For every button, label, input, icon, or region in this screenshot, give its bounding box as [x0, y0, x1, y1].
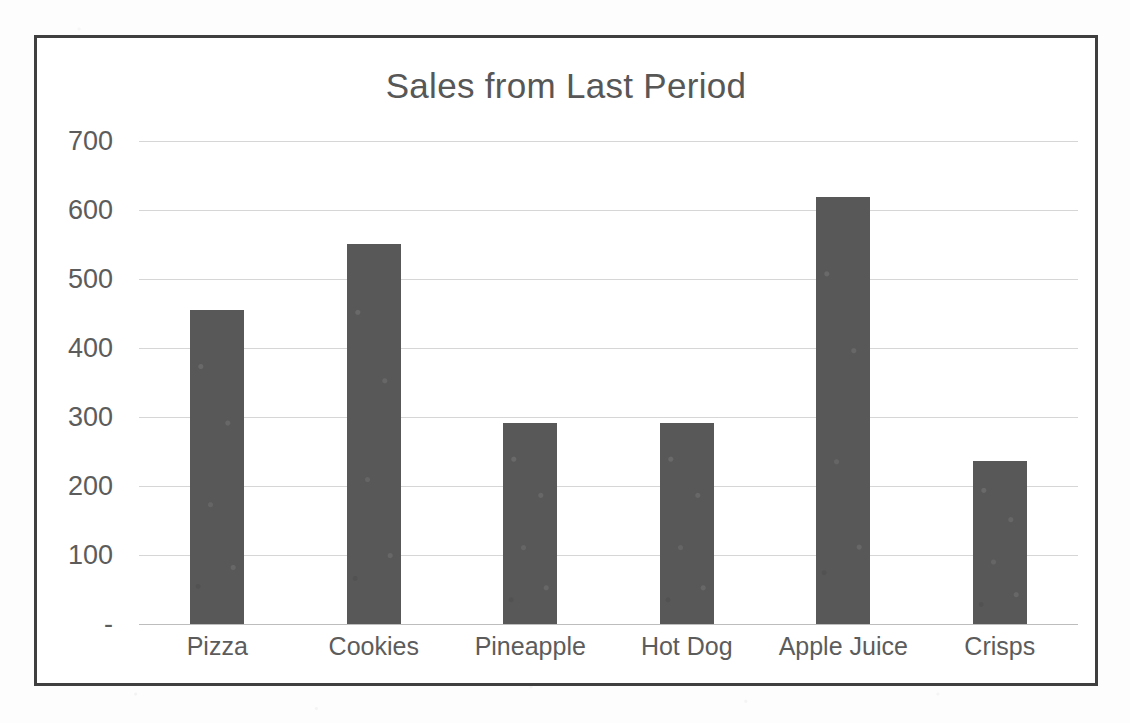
bar-slot-pizza	[139, 141, 296, 624]
xtick-label-apple-juice: Apple Juice	[779, 632, 908, 660]
scanned-page: Sales from Last Period 700 600 500 400 3…	[0, 0, 1130, 723]
ytick-label-100: 100	[68, 540, 113, 571]
bar-slot-crisps	[922, 141, 1079, 624]
ytick-label-400: 400	[68, 333, 113, 364]
bar-pineapple[interactable]	[503, 423, 557, 624]
xlabel-slot-pineapple: Pineapple	[452, 632, 609, 661]
bar-apple-juice[interactable]	[816, 197, 870, 624]
ytick-label-500: 500	[68, 264, 113, 295]
bar-cookies[interactable]	[347, 244, 401, 624]
xlabel-slot-pizza: Pizza	[139, 632, 296, 661]
chart-title: Sales from Last Period	[37, 66, 1095, 106]
xtick-label-cookies: Cookies	[329, 632, 419, 660]
bar-slot-cookies	[296, 141, 453, 624]
bar-crisps[interactable]	[973, 461, 1027, 624]
ytick-label-zero: -	[104, 609, 113, 640]
bar-hot-dog[interactable]	[660, 423, 714, 624]
bar-slot-apple-juice	[765, 141, 922, 624]
xlabel-slot-hot-dog: Hot Dog	[609, 632, 766, 661]
bar-slot-pineapple	[452, 141, 609, 624]
ytick-label-600: 600	[68, 195, 113, 226]
bar-slot-hot-dog	[609, 141, 766, 624]
ytick-label-300: 300	[68, 402, 113, 433]
xtick-label-pizza: Pizza	[187, 632, 248, 660]
xtick-label-hot-dog: Hot Dog	[641, 632, 733, 660]
bar-series	[139, 141, 1078, 624]
ytick-label-200: 200	[68, 471, 113, 502]
xlabel-slot-cookies: Cookies	[296, 632, 453, 661]
gridline-zero-baseline: -	[139, 624, 1078, 625]
xtick-label-crisps: Crisps	[964, 632, 1035, 660]
x-axis-labels: Pizza Cookies Pineapple Hot Dog Apple Ju…	[139, 632, 1078, 661]
xtick-label-pineapple: Pineapple	[475, 632, 586, 660]
xlabel-slot-apple-juice: Apple Juice	[765, 632, 922, 661]
xlabel-slot-crisps: Crisps	[922, 632, 1079, 661]
ytick-label-700: 700	[68, 126, 113, 157]
plot-area: 700 600 500 400 300 200 100 -	[139, 141, 1078, 624]
chart-frame: Sales from Last Period 700 600 500 400 3…	[34, 35, 1098, 686]
bar-pizza[interactable]	[190, 310, 244, 624]
